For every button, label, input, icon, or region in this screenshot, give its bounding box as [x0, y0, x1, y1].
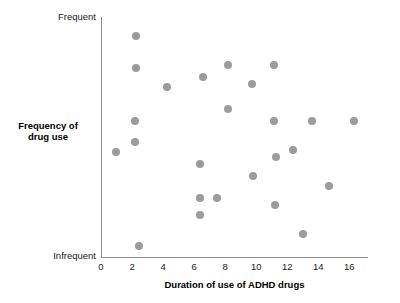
data-point — [196, 194, 204, 202]
data-point — [224, 61, 232, 69]
x-tick-label: 0 — [98, 261, 103, 272]
x-tick-label: 14 — [313, 261, 324, 272]
plot-area — [101, 17, 368, 258]
data-point — [132, 32, 140, 40]
data-point — [350, 117, 358, 125]
data-point — [308, 117, 316, 125]
data-point — [224, 105, 232, 113]
data-point — [249, 172, 257, 180]
data-point — [289, 146, 297, 154]
data-point — [270, 117, 278, 125]
x-tick-label: 10 — [251, 261, 262, 272]
data-point — [270, 61, 278, 69]
data-point — [112, 148, 120, 156]
x-tick-label: 6 — [191, 261, 196, 272]
data-point — [131, 138, 139, 146]
data-point — [163, 83, 171, 91]
data-point — [272, 153, 280, 161]
data-point — [196, 160, 204, 168]
data-point — [271, 201, 279, 209]
x-tick-label: 16 — [344, 261, 355, 272]
x-tick-label: 2 — [129, 261, 134, 272]
data-point — [248, 80, 256, 88]
data-point — [299, 230, 307, 238]
y-axis-title: Frequency of drug use — [4, 120, 92, 142]
x-tick-label: 8 — [223, 261, 228, 272]
x-tick-label: 12 — [282, 261, 293, 272]
x-axis-tick-labels: 0246810121416 — [101, 261, 368, 275]
x-axis-title: Duration of use of ADHD drugs — [101, 279, 368, 290]
data-points-layer — [101, 17, 368, 258]
data-point — [131, 117, 139, 125]
y-axis-title-line-1: Frequency of — [4, 120, 92, 131]
data-point — [135, 242, 143, 250]
data-point — [196, 211, 204, 219]
data-point — [213, 194, 221, 202]
x-tick-label: 4 — [160, 261, 165, 272]
y-axis-end-label-low: Infrequent — [53, 250, 96, 261]
scatter-plot-figure: Frequency of drug use Frequent Infrequen… — [0, 0, 400, 303]
y-axis-end-label-high: Frequent — [58, 11, 96, 22]
data-point — [132, 64, 140, 72]
y-axis-title-line-2: drug use — [4, 131, 92, 142]
data-point — [325, 182, 333, 190]
data-point — [199, 73, 207, 81]
